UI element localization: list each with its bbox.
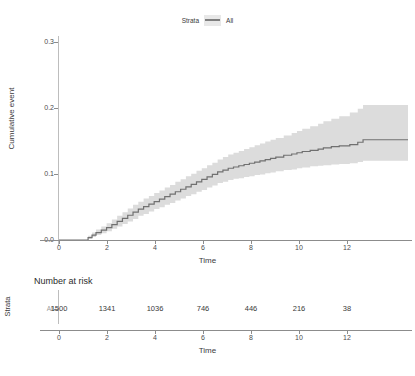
y-tick-label-2: 0.2 <box>32 104 54 111</box>
x-axis-tick-labels: 0 2 4 6 8 10 12 <box>0 244 415 256</box>
risk-x-axis-title: Time <box>0 346 415 355</box>
y-axis-title: Cumulative event <box>7 64 16 174</box>
y-tick-label-1: 0.1 <box>32 170 54 177</box>
line-swatch-icon <box>204 15 221 26</box>
risk-table-panel: Number at risk Strata All 1500 1341 1036… <box>0 276 415 376</box>
risk-x-tick-label-10: 10 <box>295 334 303 341</box>
risk-x-tick-label-6: 6 <box>201 334 205 341</box>
risk-x-tick-label-0: 0 <box>57 334 61 341</box>
y-tick-label-3: 0.3 <box>32 38 54 45</box>
risk-value-t4: 1036 <box>147 304 164 313</box>
x-tick-label-4: 4 <box>153 244 157 251</box>
risk-strata-axis-title: Strata <box>3 287 12 327</box>
plot-area <box>59 42 408 240</box>
risk-value-t12: 38 <box>343 304 351 313</box>
y-axis-tick-labels: 0.0 0.1 0.2 0.3 <box>28 30 54 262</box>
risk-table-title: Number at risk <box>34 276 93 286</box>
survival-curve-panel: Cumulative event 0.0 0.1 0.2 0.3 0 2 4 6… <box>0 30 415 262</box>
x-tick-label-0: 0 <box>57 244 61 251</box>
confidence-band <box>59 105 408 240</box>
x-tick-label-8: 8 <box>249 244 253 251</box>
risk-value-t10: 216 <box>293 304 306 313</box>
legend: Strata All <box>0 12 415 28</box>
legend-title: Strata <box>182 17 199 24</box>
x-tick-label-2: 2 <box>105 244 109 251</box>
x-tick-label-10: 10 <box>295 244 303 251</box>
kaplan-meier-curve-svg <box>59 42 408 240</box>
risk-x-tick-label-8: 8 <box>249 334 253 341</box>
risk-value-t2: 1341 <box>99 304 116 313</box>
risk-x-tick-label-4: 4 <box>153 334 157 341</box>
x-tick-label-12: 12 <box>343 244 351 251</box>
risk-value-t6: 746 <box>197 304 210 313</box>
risk-x-tick-label-12: 12 <box>343 334 351 341</box>
risk-value-t8: 446 <box>245 304 258 313</box>
risk-value-t0: 1500 <box>51 304 68 313</box>
legend-item-label-all: All <box>226 17 233 24</box>
risk-x-axis-tick-labels: 0 2 4 6 8 10 12 <box>0 334 415 346</box>
x-tick-label-6: 6 <box>201 244 205 251</box>
x-axis-title: Time <box>0 256 415 265</box>
risk-x-tick-label-2: 2 <box>105 334 109 341</box>
